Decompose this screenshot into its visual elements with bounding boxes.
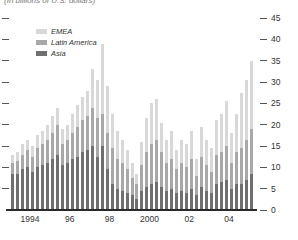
- bar-segment-latin-america: [190, 159, 193, 189]
- bar-2005Q1: [230, 133, 233, 210]
- y-tick-label: 5: [271, 184, 276, 194]
- bar-2000Q4: [145, 118, 148, 210]
- bar-segment-asia: [76, 157, 79, 210]
- bar-2002Q4: [185, 144, 188, 210]
- bar-1995Q4: [46, 125, 49, 210]
- bar-1995Q2: [36, 135, 39, 210]
- bar-segment-latin-america: [126, 169, 129, 192]
- x-tick-label-98: 98: [105, 214, 114, 224]
- bar-segment-emea: [11, 155, 14, 164]
- bar-segment-emea: [116, 131, 119, 159]
- bar-segment-asia: [51, 159, 54, 210]
- bar-segment-emea: [185, 144, 188, 167]
- bar-2001Q2: [155, 99, 158, 210]
- bar-segment-emea: [140, 142, 143, 165]
- bar-segment-asia: [71, 159, 74, 210]
- bar-1998Q1: [91, 69, 94, 210]
- bar-1999Q4: [126, 150, 129, 210]
- y-tick-left: [2, 60, 9, 61]
- bar-segment-asia: [240, 184, 243, 210]
- bar-segment-latin-america: [51, 133, 54, 159]
- bar-segment-latin-america: [76, 127, 79, 157]
- bar-segment-emea: [121, 140, 124, 163]
- y-tick-right: [260, 146, 267, 147]
- legend-swatch: [36, 29, 47, 34]
- bar-segment-emea: [250, 61, 253, 129]
- bar-segment-emea: [160, 123, 163, 153]
- bar-segment-asia: [106, 169, 109, 210]
- legend-item-latin-america: Latin America: [36, 37, 97, 47]
- y-tick-left: [2, 103, 9, 104]
- bar-1995Q1: [31, 146, 34, 210]
- y-tick-label: 35: [271, 56, 280, 66]
- bar-segment-asia: [96, 157, 99, 210]
- bar-segment-latin-america: [106, 133, 109, 169]
- x-tick-label-04: 04: [224, 214, 233, 224]
- bar-2005Q3: [240, 93, 243, 210]
- bar-1997Q1: [71, 114, 74, 210]
- bar-2003Q4: [205, 140, 208, 210]
- bar-segment-latin-america: [101, 114, 104, 146]
- bar-1994Q1: [11, 155, 14, 210]
- bar-segment-asia: [180, 191, 183, 210]
- bar-1996Q4: [66, 125, 69, 210]
- bar-segment-asia: [210, 193, 213, 210]
- bar-segment-asia: [11, 174, 14, 210]
- bar-segment-emea: [71, 114, 74, 133]
- bar-segment-asia: [86, 150, 89, 210]
- bar-segment-asia: [200, 187, 203, 210]
- bar-1994Q2: [16, 152, 19, 210]
- bar-segment-latin-america: [215, 155, 218, 185]
- bar-segment-emea: [51, 116, 54, 133]
- bar-2001Q4: [165, 140, 168, 210]
- bar-segment-latin-america: [210, 172, 213, 193]
- bar-2004Q2: [215, 120, 218, 210]
- legend-swatch: [36, 51, 47, 56]
- bar-1997Q4: [86, 91, 89, 210]
- bar-2005Q4: [245, 80, 248, 210]
- y-tick-left: [2, 18, 9, 19]
- bar-segment-latin-america: [185, 167, 188, 193]
- legend-swatch: [36, 40, 47, 45]
- bar-segment-latin-america: [11, 163, 14, 174]
- bar-segment-asia: [205, 191, 208, 210]
- bar-segment-latin-america: [235, 152, 238, 184]
- bar-1996Q2: [56, 108, 59, 210]
- bar-2001Q3: [160, 123, 163, 210]
- bar-segment-emea: [41, 131, 44, 144]
- bar-2004Q4: [225, 101, 228, 210]
- bar-segment-latin-america: [41, 144, 44, 165]
- y-tick-label: 25: [271, 98, 280, 108]
- legend-label: Latin America: [51, 38, 97, 47]
- bar-segment-emea: [101, 44, 104, 114]
- bar-segment-latin-america: [135, 184, 138, 199]
- bar-2003Q3: [200, 127, 203, 210]
- bar-segment-emea: [230, 133, 233, 163]
- bar-segment-asia: [185, 193, 188, 210]
- bar-segment-asia: [150, 184, 153, 210]
- y-tick-left: [2, 124, 9, 125]
- bar-segment-emea: [21, 144, 24, 155]
- bar-segment-latin-america: [225, 146, 228, 180]
- bar-segment-emea: [31, 146, 34, 157]
- bar-segment-emea: [190, 131, 193, 159]
- bar-1997Q2: [76, 105, 79, 210]
- bar-segment-latin-america: [66, 140, 69, 163]
- y-tick-right: [260, 103, 267, 104]
- bar-segment-latin-america: [16, 161, 19, 174]
- bar-1998Q4: [106, 86, 109, 210]
- bar-segment-emea: [165, 140, 168, 163]
- bar-segment-latin-america: [46, 140, 49, 163]
- bar-segment-latin-america: [140, 165, 143, 191]
- bar-segment-emea: [76, 105, 79, 126]
- bar-segment-latin-america: [121, 163, 124, 191]
- bar-segment-asia: [131, 195, 134, 210]
- bar-segment-asia: [190, 189, 193, 210]
- y-tick-label: 45: [271, 13, 280, 23]
- bar-1994Q4: [26, 140, 29, 210]
- bar-segment-latin-america: [56, 125, 59, 155]
- bar-segment-asia: [215, 184, 218, 210]
- bar-segment-emea: [81, 97, 84, 120]
- bar-segment-latin-america: [150, 144, 153, 185]
- x-tick-label-2000: 2000: [140, 214, 159, 224]
